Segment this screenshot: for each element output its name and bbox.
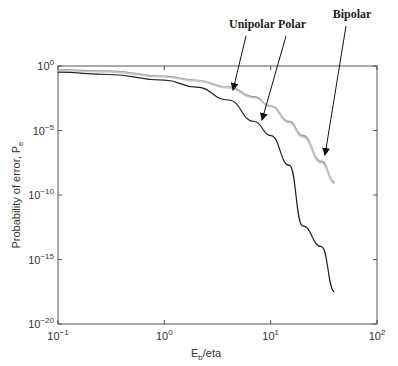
annotation-polar: Polar <box>278 17 307 31</box>
annotation-bipolar: Bipolar <box>333 7 372 21</box>
tick-label: 100 <box>37 58 54 72</box>
plot-frame <box>58 66 377 324</box>
tick-label: 10−5 <box>33 123 55 137</box>
tick-label: 102 <box>369 328 386 342</box>
tick-label: 100 <box>156 328 173 342</box>
tick-label: 10−10 <box>28 187 54 201</box>
axis-ticks: 10−110010110210010−510−1010−1510−20 <box>28 58 386 342</box>
annotations: UnipolarPolarBipolar <box>229 7 372 155</box>
error-probability-chart: 10−110010110210010−510−1010−1510−20 Unip… <box>0 0 398 366</box>
curve-polar <box>58 72 335 292</box>
tick-label: 10−15 <box>28 252 54 266</box>
x-axis-label: Eb/eta <box>191 347 222 362</box>
tick-label: 10−1 <box>47 328 69 342</box>
y-axis-label: Probability of error, Pe <box>10 141 25 249</box>
curves <box>58 70 335 292</box>
arrow-icon <box>325 26 346 155</box>
annotation-unipolar: Unipolar <box>229 17 276 31</box>
arrow-icon <box>233 36 246 90</box>
tick-label: 10−20 <box>28 316 54 330</box>
tick-label: 101 <box>262 328 279 342</box>
